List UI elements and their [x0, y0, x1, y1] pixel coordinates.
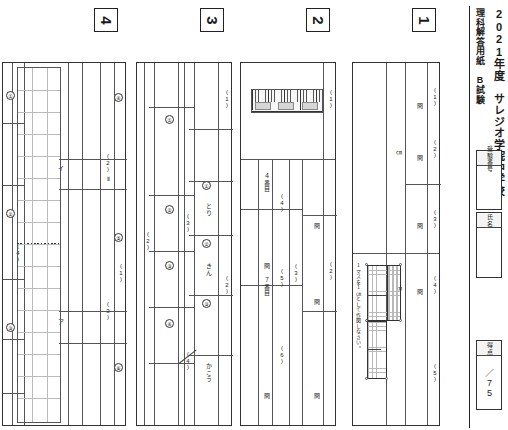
s4-rule-d	[68, 63, 69, 425]
s2-rule-d	[272, 159, 273, 425]
s3-rule-d	[178, 63, 179, 425]
grid-mark-2	[367, 349, 381, 350]
section-4-block[interactable]: (1) (2) (3) (4) イ ア ① ② ③ ④ ⑤ ⑥ Ⅱ	[2, 62, 126, 426]
name-box[interactable]: 氏名	[476, 212, 502, 278]
s4-rule-c	[82, 63, 83, 425]
answer-sheet: 2021年度 サレジオ学院中学校 理科解答用紙 B試験 受験番号 氏名 得点 ／…	[0, 0, 508, 430]
s4-circle-6: ⑥	[114, 363, 123, 372]
s3-rule-n	[149, 251, 195, 252]
exam-number-label-wrap: 受験番号	[477, 152, 501, 166]
section-1-grid-figure[interactable]: １マスを１㎝として作図しなさい。	[357, 259, 403, 423]
s3-q5-label: (2)	[145, 231, 151, 252]
s2-rule-i	[303, 215, 337, 216]
s1-rule-a	[427, 63, 428, 425]
s1-q4-label: (4)	[432, 275, 438, 296]
s2-mark-3: 問	[313, 393, 319, 401]
s2-mark-5: 問	[263, 393, 269, 401]
s1-q1-label: (1)	[432, 87, 438, 108]
s1-mark-4: 問	[416, 289, 422, 297]
s3-rule-g	[189, 129, 233, 130]
s1-q2-label: (2)	[432, 139, 438, 160]
s3-q2-label: (2)	[224, 275, 230, 296]
s2-rule-c	[289, 159, 290, 425]
s3-q3-label: (3)	[185, 213, 191, 234]
s4-graph-note: Ⅱ	[105, 175, 111, 184]
s4-rule-g	[59, 159, 127, 160]
name-label-wrap: 氏名	[477, 214, 501, 228]
name-label: 氏名	[486, 214, 492, 227]
section-1-block[interactable]: (1) (2) (3) (4) (5) 問 問 問 問 ㎝ ㎝	[352, 62, 440, 426]
s2-mark-4: 問	[263, 263, 269, 271]
score-value: ／75	[477, 357, 501, 409]
s4-circle-2: ②	[6, 209, 15, 218]
grid-vertex-5	[365, 377, 368, 380]
s3-rule-o	[149, 307, 195, 308]
section-2-badge: 2	[306, 8, 330, 32]
grid-mark-1	[367, 295, 387, 296]
s1-rule-b	[405, 63, 406, 425]
s2-rule-g	[241, 209, 303, 210]
s2-row-label-2: ７番目	[263, 277, 269, 298]
section-2-block[interactable]: (1) (2) (3) (4) (5) (6) ４番目 ７番目 問 問 問 問 …	[240, 62, 336, 426]
s4-circle-4: ④	[114, 93, 123, 102]
s4-rule-h	[59, 189, 127, 190]
s4-dotted-guide	[17, 243, 61, 244]
s1-q2-unit: ㎝	[395, 149, 401, 157]
s3-circle-7: ③	[202, 299, 211, 308]
s3-rule-h	[189, 181, 233, 182]
s4-q2-label: (2)	[105, 153, 111, 174]
s3-circle-5: ①	[202, 181, 211, 190]
s2-mark-1: 問	[313, 223, 319, 231]
s2-q4-label: (4)	[279, 193, 285, 214]
grid-panel-bottom	[367, 321, 387, 379]
grid-figure-note: １マスを１㎝として作図しなさい。	[355, 263, 360, 352]
s3-circle-2: ②	[165, 205, 174, 214]
s4-q1-label: (1)	[118, 263, 124, 284]
s2-q6-label: (6)	[279, 345, 285, 366]
s1-q3-label: (3)	[432, 209, 438, 230]
s1-q5-label: (5)	[432, 363, 438, 384]
s4-q3-label: (3)	[105, 301, 111, 322]
s1-rule-d	[405, 184, 441, 185]
s3-unit-2: きん	[205, 263, 211, 277]
s4-rule-f	[12, 63, 13, 425]
s3-rule-l	[149, 107, 195, 108]
s2-rule-f	[241, 159, 335, 160]
s1-mark-2: 問	[416, 155, 422, 163]
subject-title: 理科解答用紙 B試験	[475, 8, 484, 104]
section-2-ruler-figure[interactable]	[251, 89, 323, 113]
s3-unit-1: とり	[205, 203, 211, 217]
grid-vertex-6	[385, 377, 388, 380]
score-label: 得点	[486, 342, 492, 355]
s4-rule-j	[59, 343, 127, 344]
section-4-data-table[interactable]	[17, 67, 61, 423]
s2-q2-label: (2)	[328, 261, 334, 282]
s4-rule-i	[59, 311, 127, 312]
s3-rule-b	[194, 63, 195, 425]
s3-circle-3: ③	[165, 261, 174, 270]
s4-circle-3: ③	[6, 323, 15, 332]
s2-q1-label: (1)	[328, 89, 334, 110]
s4-circle-1: ①	[6, 91, 15, 100]
ruler-baseline	[252, 111, 322, 113]
s3-rule-m	[149, 195, 195, 196]
s2-q5-label: (5)	[279, 268, 285, 289]
grid-panel-right	[387, 265, 401, 321]
s2-mark-2: 問	[313, 299, 319, 307]
s3-rule-i	[189, 235, 233, 236]
section-3-badge: 3	[200, 8, 224, 32]
s4-circle-5: ⑤	[114, 233, 123, 242]
s3-rule-e	[154, 63, 155, 425]
grid-vertex-2	[399, 263, 402, 266]
s2-rule-b	[302, 159, 303, 425]
ruler-segment-2	[278, 102, 294, 110]
s2-rule-h	[241, 285, 303, 286]
section-4-badge: 4	[94, 8, 118, 32]
section-3-block[interactable]: (1) (2) (3) (4) (2) ① ② ③ ④ ① ② ③ とり きん …	[136, 62, 232, 426]
score-box[interactable]: 得点 ／75	[476, 340, 502, 410]
grid-vertex-4	[399, 319, 402, 322]
exam-number-label: 受験番号	[486, 146, 492, 172]
s3-rule-k	[189, 355, 233, 356]
s3-q1-label: (1)	[224, 89, 230, 110]
exam-number-box[interactable]: 受験番号	[476, 150, 502, 210]
